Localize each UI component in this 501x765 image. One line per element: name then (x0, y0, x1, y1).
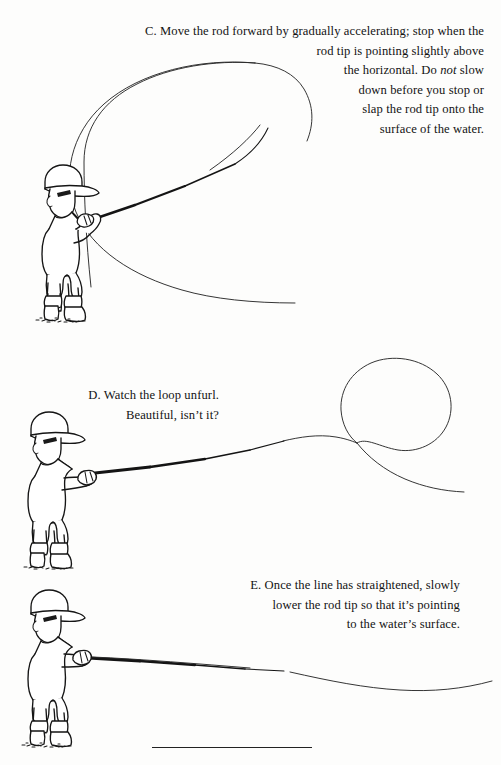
caption-c: C. Move the rod forward by gradually acc… (60, 22, 484, 140)
footer-rule (152, 747, 312, 748)
fly-rod-e (88, 657, 284, 671)
ground-stipple-c (36, 318, 85, 322)
fly-line-loop-d (283, 358, 464, 492)
angler-figure-c (36, 165, 101, 322)
ground-stipple-d (24, 567, 73, 569)
caption-d: D. Watch the loop unfurl. Beautiful, isn… (60, 386, 219, 425)
fly-rod-d (95, 441, 284, 473)
caption-e: E. Once the line has straightened, slowl… (60, 576, 460, 635)
fly-rod-c (88, 128, 268, 221)
angler-figure-d (24, 412, 96, 569)
book-page: C. Move the rod forward by gradually acc… (0, 0, 501, 765)
fly-line-straight-e (290, 672, 492, 691)
ground-stipple-e (22, 743, 71, 747)
